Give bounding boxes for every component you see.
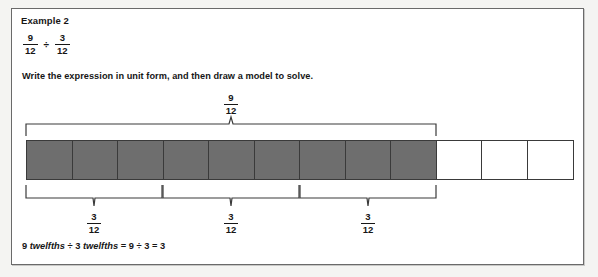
bottom-brace-path-2 bbox=[163, 185, 299, 206]
fraction-expression: 9 12 ÷ 3 12 bbox=[23, 33, 70, 56]
bottom-brace-denominator-3: 12 bbox=[361, 224, 376, 235]
bottom-brace-denominator-2: 12 bbox=[224, 224, 239, 235]
brace-lines bbox=[12, 9, 585, 266]
tape-cell-shaded bbox=[300, 141, 346, 179]
right-fraction-denominator: 12 bbox=[55, 45, 70, 56]
bottom-brace-label-2: 3 12 bbox=[211, 212, 251, 235]
tape-cell-shaded bbox=[209, 141, 255, 179]
left-fraction: 9 12 bbox=[23, 33, 38, 56]
page-title: Example 2 bbox=[21, 15, 69, 26]
answer-operator-2: ÷ bbox=[136, 241, 141, 251]
answer-operator-1: ÷ bbox=[67, 241, 72, 251]
division-operator-icon: ÷ bbox=[43, 39, 51, 50]
answer-value-2: 3 bbox=[144, 241, 149, 251]
top-brace-numerator: 9 bbox=[226, 93, 235, 104]
answer-value-1: 9 bbox=[129, 241, 134, 251]
bottom-brace-fraction-2: 3 12 bbox=[224, 212, 239, 235]
left-fraction-denominator: 12 bbox=[23, 45, 38, 56]
tape-cell-shaded bbox=[27, 141, 73, 179]
page-background: Example 2 9 12 ÷ 3 12 Write the expressi… bbox=[0, 0, 598, 277]
bottom-brace-bar-3 bbox=[361, 223, 376, 224]
bottom-brace-label-3: 3 12 bbox=[348, 212, 388, 235]
bottom-brace-path-1 bbox=[26, 185, 162, 206]
tape-cell-empty bbox=[437, 141, 483, 179]
right-fraction: 3 12 bbox=[55, 33, 70, 56]
tape-bar bbox=[26, 140, 574, 180]
answer-result: 3 bbox=[160, 241, 165, 251]
bottom-brace-denominator-1: 12 bbox=[87, 224, 102, 235]
bottom-brace-path-3 bbox=[300, 185, 436, 206]
top-brace-denominator: 12 bbox=[224, 105, 239, 116]
bottom-brace-fraction-1: 3 12 bbox=[87, 212, 102, 235]
instruction-text: Write the expression in unit form, and t… bbox=[22, 71, 313, 81]
top-brace-bar bbox=[224, 104, 239, 105]
example-card: Example 2 9 12 ÷ 3 12 Write the expressi… bbox=[11, 8, 584, 265]
tape-cell-shaded bbox=[346, 141, 392, 179]
bottom-brace-numerator-2: 3 bbox=[226, 212, 235, 223]
tape-cell-empty bbox=[528, 141, 574, 179]
tape-cell-shaded bbox=[391, 141, 437, 179]
top-brace-label: 9 12 bbox=[211, 93, 251, 116]
tape-cell-shaded bbox=[164, 141, 210, 179]
right-fraction-numerator: 3 bbox=[58, 33, 67, 44]
bottom-brace-numerator-1: 3 bbox=[89, 212, 98, 223]
tape-cell-shaded bbox=[255, 141, 301, 179]
answer-equation: 9 twelfths ÷ 3 twelfths = 9 ÷ 3 = 3 bbox=[22, 241, 165, 251]
answer-count-1: 9 bbox=[22, 241, 27, 251]
top-brace-fraction: 9 12 bbox=[224, 93, 239, 116]
bottom-brace-label-1: 3 12 bbox=[74, 212, 114, 235]
bottom-brace-numerator-3: 3 bbox=[363, 212, 372, 223]
answer-unit-1: twelfths bbox=[30, 241, 65, 251]
tape-diagram: 9 12 bbox=[12, 9, 585, 266]
answer-equals-1: = bbox=[121, 241, 126, 251]
top-brace-path bbox=[26, 117, 436, 136]
answer-count-2: 3 bbox=[75, 241, 80, 251]
left-fraction-numerator: 9 bbox=[26, 33, 35, 44]
bottom-brace-bar-1 bbox=[87, 223, 102, 224]
answer-equals-2: = bbox=[152, 241, 157, 251]
bottom-brace-bar-2 bbox=[224, 223, 239, 224]
answer-unit-2: twelfths bbox=[83, 241, 118, 251]
tape-cell-empty bbox=[482, 141, 528, 179]
tape-cell-shaded bbox=[73, 141, 119, 179]
bottom-brace-fraction-3: 3 12 bbox=[361, 212, 376, 235]
tape-cell-shaded bbox=[118, 141, 164, 179]
